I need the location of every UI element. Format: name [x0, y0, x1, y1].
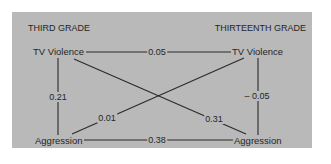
- coef-agg3-agg13: 0.38: [147, 135, 167, 145]
- coef-agg3-tv13: 0.01: [97, 113, 117, 123]
- right-grade-header: THIRTEENTH GRADE: [215, 23, 306, 34]
- coef-tv3-tv13: 0.05: [147, 47, 167, 57]
- left-grade-header: THIRD GRADE: [28, 23, 90, 34]
- node-aggression-thirteenth: Aggression: [233, 135, 282, 146]
- node-tv-violence-thirteenth: TV Violence: [231, 46, 283, 57]
- node-tv-violence-third: TV Violence: [33, 46, 85, 57]
- node-aggression-third: Aggression: [35, 135, 84, 146]
- coef-tv3-agg3: 0.21: [48, 92, 68, 102]
- coef-tv13-agg13: – 0.05: [243, 91, 270, 101]
- coef-tv3-agg13: 0.31: [204, 114, 224, 124]
